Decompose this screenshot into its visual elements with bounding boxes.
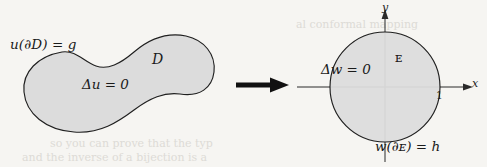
right-domain-name-label: ᴇ	[395, 51, 402, 65]
riemann-mapping-figure: al conformal mapping so you can prove th…	[0, 0, 487, 167]
unit-disk-region	[330, 32, 440, 142]
left-pde-label: Δu = 0	[82, 78, 129, 92]
maps-to-arrow	[236, 78, 289, 93]
x-axis-label: x	[472, 78, 478, 89]
y-axis-label: y	[382, 2, 388, 13]
left-boundary-condition-label: u(∂D) = g	[10, 38, 76, 52]
left-domain-name-label: D	[152, 52, 163, 66]
unit-radius-tick-label: 1	[436, 90, 443, 101]
right-pde-label: Δw = 0	[321, 63, 371, 77]
right-boundary-condition-label: w(∂ᴇ) = h	[375, 140, 440, 154]
